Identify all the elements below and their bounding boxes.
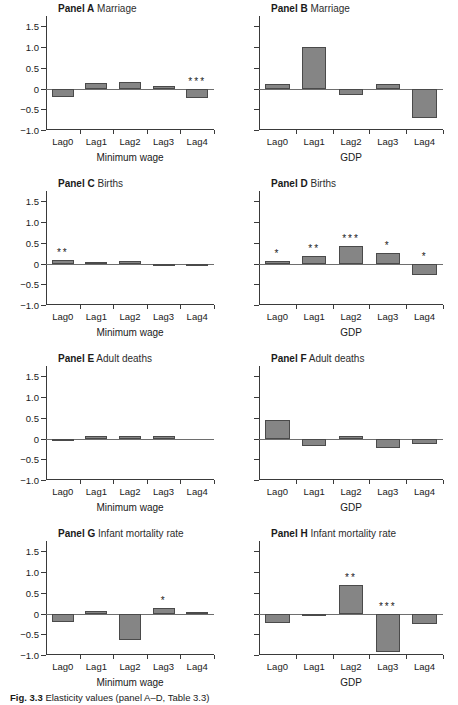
y-tick: [41, 459, 46, 460]
bar-b-lag2: [339, 89, 363, 95]
panel-c: Panel C Births1.51.00.50−0.5−1.0Lag0**La…: [0, 175, 229, 350]
x-tick-label-lag3: Lag3: [153, 486, 174, 497]
bar-c-lag4: [186, 264, 208, 266]
x-axis-line: [259, 654, 443, 655]
y-tick: [41, 572, 46, 573]
x-axis-label: GDP: [259, 327, 443, 338]
panel-outcome: Marriage: [94, 3, 136, 14]
bar-f-lag1: [302, 439, 326, 446]
x-tick: [443, 655, 444, 659]
bar-c-lag2: [119, 261, 141, 263]
figure-container: Panel A Marriage1.51.00.50−0.5−1.0Lag0La…: [0, 0, 458, 705]
y-tick-label: 1.0: [26, 567, 39, 578]
y-axis-line: [46, 366, 47, 480]
y-tick: [254, 222, 259, 223]
panel-outcome: Births: [95, 178, 123, 189]
x-tick: [214, 305, 215, 309]
x-tick: [147, 305, 148, 309]
y-tick-label: −0.5: [20, 104, 39, 115]
bar-d-lag3: [376, 253, 400, 263]
x-tick-label-lag0: Lag0: [267, 136, 288, 147]
y-tick: [254, 68, 259, 69]
bar-h-lag2: [339, 585, 363, 614]
x-axis-label: Minimum wage: [46, 327, 214, 338]
panel-title-a: Panel A Marriage: [58, 3, 137, 14]
x-tick-label-lag2: Lag2: [119, 136, 140, 147]
x-tick-label-lag4: Lag4: [414, 136, 435, 147]
panel-title-e: Panel E Adult deaths: [58, 353, 152, 364]
significance-stars-c-lag0: **: [57, 248, 69, 258]
panel-title-f: Panel F Adult deaths: [271, 353, 364, 364]
x-tick: [214, 130, 215, 134]
x-tick: [406, 655, 407, 659]
significance-stars-d-lag2: ***: [342, 234, 360, 244]
y-tick-label: −0.5: [20, 629, 39, 640]
panel-outcome: Births: [308, 178, 336, 189]
panel-d: Panel D BirthsLag0*Lag1**Lag2***Lag3*Lag…: [229, 175, 458, 350]
y-tick-label: −1.0: [20, 650, 39, 661]
panel-outcome: Adult deaths: [94, 353, 152, 364]
x-tick: [147, 130, 148, 134]
x-tick-label-lag1: Lag1: [86, 661, 107, 672]
bar-c-lag3: [153, 264, 175, 266]
bar-b-lag1: [302, 47, 326, 88]
x-tick: [443, 130, 444, 134]
y-tick: [41, 222, 46, 223]
y-tick-label: 1.5: [26, 21, 39, 32]
panel-b: Panel B MarriageLag0Lag1Lag2Lag3Lag4GDP: [229, 0, 458, 175]
x-axis-line: [46, 654, 214, 655]
x-tick-label-lag4: Lag4: [187, 661, 208, 672]
caption-label: Fig. 3.3: [10, 692, 43, 703]
panel-label: Panel H: [271, 528, 308, 539]
y-axis-line: [46, 16, 47, 130]
y-tick: [41, 26, 46, 27]
y-tick: [254, 26, 259, 27]
bar-a-lag4: [186, 89, 208, 99]
y-tick-label: −1.0: [20, 475, 39, 486]
bar-b-lag3: [376, 84, 400, 89]
bar-e-lag3: [153, 436, 175, 438]
y-tick-label: 0: [34, 83, 39, 94]
y-tick: [41, 201, 46, 202]
x-axis-line: [259, 479, 443, 480]
x-tick: [147, 480, 148, 484]
x-tick: [406, 130, 407, 134]
x-tick: [113, 655, 114, 659]
x-tick: [180, 130, 181, 134]
x-tick: [296, 655, 297, 659]
x-tick-label-lag0: Lag0: [267, 486, 288, 497]
x-tick-label-lag2: Lag2: [340, 661, 361, 672]
plot-area-c: Panel C Births1.51.00.50−0.5−1.0Lag0**La…: [46, 191, 214, 305]
x-tick: [180, 480, 181, 484]
x-tick: [333, 480, 334, 484]
x-tick: [113, 130, 114, 134]
y-axis-line: [259, 541, 260, 655]
x-tick-label-lag0: Lag0: [267, 661, 288, 672]
y-tick-label: 0: [34, 608, 39, 619]
y-tick: [254, 418, 259, 419]
caption-text: Elasticity values (panel A–D, Table 3.3): [45, 692, 209, 703]
x-tick: [296, 305, 297, 309]
panel-label: Panel B: [271, 3, 308, 14]
y-tick-label: 1.5: [26, 546, 39, 557]
y-tick-label: 1.0: [26, 392, 39, 403]
x-tick-label-lag0: Lag0: [52, 486, 73, 497]
bar-b-lag4: [412, 89, 436, 119]
y-tick: [254, 634, 259, 635]
y-tick: [254, 284, 259, 285]
x-tick: [80, 480, 81, 484]
y-tick: [254, 201, 259, 202]
y-axis-line: [259, 16, 260, 130]
panel-outcome: Marriage: [308, 3, 350, 14]
y-tick-label: 0: [34, 433, 39, 444]
x-tick: [443, 305, 444, 309]
y-tick: [41, 68, 46, 69]
x-tick: [80, 130, 81, 134]
x-tick-label-lag2: Lag2: [119, 311, 140, 322]
panel-outcome: Infant mortality rate: [95, 528, 183, 539]
bar-h-lag1: [302, 614, 326, 616]
bar-a-lag1: [85, 83, 107, 88]
x-tick: [296, 130, 297, 134]
bar-e-lag0: [52, 439, 74, 441]
bar-e-lag1: [85, 436, 107, 438]
